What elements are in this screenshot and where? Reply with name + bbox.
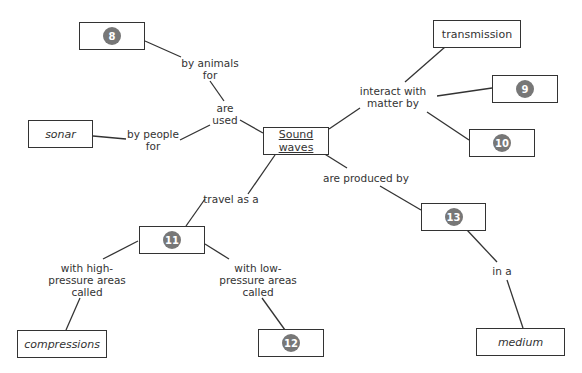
central-concept-label: Sound waves (279, 128, 314, 154)
node-compressions-label: compressions (24, 338, 100, 351)
link-label-are-produced-by: are produced by (323, 172, 409, 184)
node-transmission-label: transmission (442, 28, 512, 41)
node-compressions: compressions (17, 330, 107, 358)
number-badge-10: 10 (493, 134, 511, 152)
number-badge-11: 11 (163, 231, 181, 249)
node-sonar: sonar (28, 120, 93, 148)
node-medium: medium (476, 328, 565, 356)
node-sound-waves: Sound waves (263, 127, 329, 155)
number-badge-8: 8 (103, 27, 121, 45)
node-sonar-label: sonar (45, 128, 76, 141)
number-badge-13: 13 (445, 208, 463, 226)
node-13: 13 (421, 203, 486, 231)
link-label-interact-with-matter-by: interact with matter by (360, 85, 426, 109)
node-8: 8 (79, 22, 145, 50)
link-label-by-animals-for: by animals for (181, 57, 238, 81)
link-label-are-used: are used (212, 102, 237, 126)
link-label-by-people-for: by people for (127, 128, 179, 152)
node-9: 9 (492, 75, 558, 103)
connector-lines (0, 0, 582, 373)
link-label-low-pressure: with low- pressure areas called (219, 262, 297, 298)
link-label-travel-as-a: travel as a (203, 193, 258, 205)
link-label-in-a: in a (492, 265, 511, 277)
number-badge-12: 12 (282, 334, 300, 352)
link-label-high-pressure: with high- pressure areas called (48, 262, 126, 298)
number-badge-9: 9 (516, 80, 534, 98)
node-12: 12 (258, 329, 324, 357)
node-transmission: transmission (433, 20, 521, 48)
node-medium-label: medium (498, 336, 543, 349)
node-10: 10 (469, 129, 535, 157)
node-11: 11 (139, 226, 205, 254)
